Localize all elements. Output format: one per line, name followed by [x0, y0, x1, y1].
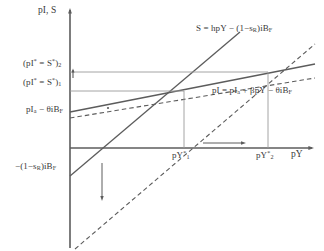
x-axis-arrowhead — [308, 146, 314, 150]
y-axis-title: pI, S — [38, 6, 56, 16]
investment-curve-initial-line — [70, 78, 315, 118]
equilibrium-1-label: (pI* = S*)1 — [23, 77, 62, 87]
tick-equilibrium-2-arrowhead — [72, 69, 75, 73]
investment-intercept-label: pIa − θiBF — [26, 105, 63, 114]
saving-intercept-label: −(1−sR)iBF — [15, 162, 56, 171]
output-1-tick-label: pY*1 — [172, 150, 190, 160]
plot-canvas — [0, 0, 324, 251]
output-increase-arrowhead — [241, 141, 246, 144]
y-axis-arrowhead — [68, 8, 72, 14]
curve-shift-arrowhead — [100, 196, 103, 201]
saving-curve-label: S = hpY − (1−sR)iBF — [196, 24, 272, 33]
investment-curve-label: pI = pIa + βpY − θiBF — [212, 86, 292, 95]
economics-diagram: pI, S S = hpY − (1−sR)iBF pI = pIa + βpY… — [0, 0, 324, 251]
x-axis-title: pY — [291, 150, 303, 160]
saving-curve-shifted-line — [75, 44, 315, 249]
output-2-tick-label: pY*2 — [256, 150, 274, 160]
marker-investment-curve — [107, 107, 109, 109]
equilibrium-2-label: (pI* = S*)2 — [23, 58, 62, 68]
